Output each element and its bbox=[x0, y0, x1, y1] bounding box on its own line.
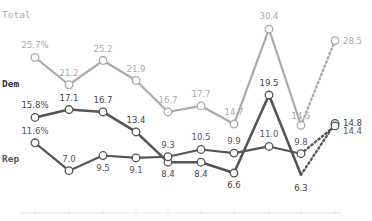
point-dem bbox=[99, 108, 107, 116]
point-rep bbox=[31, 139, 39, 147]
data-label-dem: 6.6 bbox=[227, 179, 241, 190]
point-rep bbox=[265, 143, 273, 151]
point-dem bbox=[65, 106, 73, 114]
point-rep bbox=[99, 152, 107, 160]
data-label-rep: 11.0 bbox=[259, 128, 278, 139]
data-label-rep: 9.5 bbox=[96, 162, 110, 173]
data-label-total: 17.7 bbox=[191, 88, 210, 99]
line-chart: 25.7%21.225.221.916.717.714.730.414.528.… bbox=[0, 0, 372, 221]
point-total bbox=[132, 77, 140, 85]
point-dem bbox=[197, 158, 205, 166]
point-total bbox=[197, 102, 205, 110]
data-label-rep: 9.1 bbox=[129, 164, 143, 175]
data-label-dem: 6.3 bbox=[294, 182, 308, 193]
series-lines bbox=[35, 29, 335, 175]
point-dem bbox=[230, 169, 238, 177]
data-label-dem: 15.8% bbox=[21, 99, 48, 110]
data-label-total: 28.5 bbox=[343, 35, 362, 46]
data-label-dem: 16.7 bbox=[93, 94, 112, 105]
data-label-dem: 8.4 bbox=[194, 168, 208, 179]
point-total bbox=[297, 121, 305, 129]
data-label-dem: 17.1 bbox=[59, 92, 78, 103]
x-axis bbox=[20, 211, 342, 215]
series-label-total: Total bbox=[2, 9, 31, 20]
point-total bbox=[99, 57, 107, 65]
data-labels: 25.7%21.225.221.916.717.714.730.414.528.… bbox=[21, 10, 362, 193]
point-rep bbox=[331, 122, 339, 130]
point-dem bbox=[31, 114, 39, 122]
point-rep bbox=[164, 153, 172, 161]
data-label-rep: 14.4 bbox=[343, 125, 362, 136]
data-label-total: 21.2 bbox=[59, 67, 78, 78]
data-label-total: 30.4 bbox=[259, 10, 278, 21]
data-label-total: 16.7 bbox=[158, 94, 177, 105]
point-rep bbox=[132, 154, 140, 162]
data-label-total: 14.5 bbox=[291, 110, 310, 121]
point-dem bbox=[132, 128, 140, 136]
point-total bbox=[265, 25, 273, 33]
point-total bbox=[31, 54, 39, 62]
point-total bbox=[331, 37, 339, 45]
data-label-rep: 7.0 bbox=[62, 153, 76, 164]
data-label-dem: 19.5 bbox=[259, 77, 278, 88]
data-label-total: 14.7 bbox=[224, 106, 243, 117]
point-total bbox=[65, 81, 73, 89]
point-rep bbox=[230, 149, 238, 157]
data-label-rep: 9.8 bbox=[294, 136, 308, 147]
point-rep bbox=[65, 167, 73, 175]
series-label-dem: Dem bbox=[2, 78, 19, 89]
series-label-rep: Rep bbox=[2, 153, 19, 164]
point-total bbox=[164, 108, 172, 116]
data-label-rep: 9.3 bbox=[161, 139, 175, 150]
data-label-dem: 8.4 bbox=[161, 168, 175, 179]
point-dem bbox=[265, 91, 273, 99]
data-label-total: 21.9 bbox=[126, 63, 145, 74]
data-label-dem: 13.4 bbox=[126, 114, 145, 125]
data-label-total: 25.2 bbox=[93, 43, 112, 54]
data-label-rep: 11.6% bbox=[21, 125, 48, 136]
point-rep bbox=[297, 150, 305, 158]
point-rep bbox=[197, 146, 205, 154]
data-label-rep: 9.9 bbox=[227, 135, 241, 146]
data-label-rep: 10.5 bbox=[191, 131, 210, 142]
point-total bbox=[230, 120, 238, 128]
data-label-total: 25.7% bbox=[21, 39, 48, 50]
